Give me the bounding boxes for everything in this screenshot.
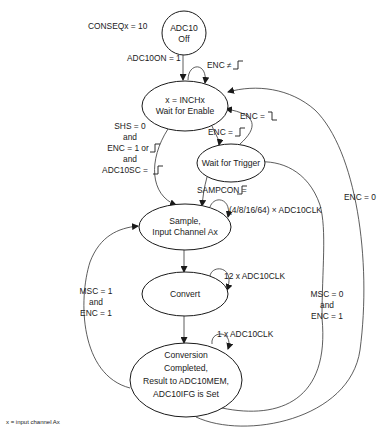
- label-enc-fall: ENC =: [240, 111, 265, 121]
- state-wait-enable-line1: x = INCHx: [165, 95, 205, 105]
- edge-complete-to-sample: [84, 226, 138, 388]
- label-enc-rise: ENC =: [208, 127, 233, 137]
- label-shs-line2: and: [123, 132, 137, 142]
- label-shs-line1: SHS = 0: [114, 121, 146, 131]
- label-msc0-line1: MSC = 0: [311, 289, 344, 299]
- state-wait-trigger: Wait for Trigger: [197, 144, 265, 182]
- state-complete-line3: Result to ADC10MEM,: [143, 376, 229, 386]
- label-msc1-line1: MSC = 1: [80, 286, 113, 296]
- label-msc1-line3: ENC = 1: [80, 308, 112, 318]
- label-msc0-line3: ENC = 1: [311, 311, 343, 321]
- state-complete-line1: Conversion: [164, 350, 208, 360]
- label-adc10on: ADC10ON = 1: [127, 53, 181, 63]
- label-convert-clk: 12 x ADC10CLK: [224, 271, 285, 281]
- state-wait-enable: x = INCHx Wait for Enable: [142, 81, 228, 131]
- state-sample-line2: Input Channel Ax: [152, 227, 218, 237]
- state-sample: Sample, Input Channel Ax: [139, 204, 231, 250]
- state-convert-line1: Convert: [170, 289, 201, 299]
- label-msc1: MSC = 1 and ENC = 1: [80, 286, 113, 318]
- state-wait-trigger-line1: Wait for Trigger: [202, 158, 261, 168]
- state-off: ADC10 Off: [162, 11, 206, 55]
- rising-edge-icon: [233, 61, 243, 69]
- label-msc0: MSC = 0 and ENC = 1: [311, 289, 344, 321]
- state-sample-line1: Sample,: [169, 216, 201, 226]
- label-shs-condition: SHS = 0 and ENC = 1 or and ADC10SC =: [102, 121, 163, 175]
- label-complete-clk: 1 x ADC10CLK: [217, 329, 274, 339]
- state-off-line2: Off: [178, 34, 190, 44]
- label-shs-line3: ENC = 1 or: [107, 143, 149, 153]
- label-enc0: ENC = 0: [344, 192, 376, 202]
- label-shs-line5: ADC10SC =: [102, 165, 148, 175]
- label-msc0-line2: and: [320, 300, 334, 310]
- rising-edge-icon: [235, 128, 245, 136]
- falling-edge-icon: [268, 112, 277, 120]
- edge-wait-enable-self: [188, 67, 205, 83]
- state-complete-line2: Completed,: [164, 363, 208, 373]
- adc-state-diagram: ADC10 Off x = INCHx Wait for Enable Wait…: [0, 0, 385, 432]
- label-sample-clk: (4/8/16/64) × ADC10CLK: [229, 205, 322, 215]
- label-conseq: CONSEQx = 10: [88, 21, 148, 31]
- footnote: x = input channel Ax: [6, 419, 60, 425]
- label-shs-line4: and: [123, 154, 137, 164]
- state-convert: Convert: [142, 272, 228, 316]
- state-complete-line4: ADC10IFG is Set: [153, 389, 220, 399]
- state-complete: Conversion Completed, Result to ADC10MEM…: [130, 343, 242, 417]
- state-wait-enable-line2: Wait for Enable: [156, 106, 215, 116]
- label-enc-not-rise: ENC ≠: [207, 60, 232, 70]
- label-msc1-line2: and: [89, 297, 103, 307]
- label-sampcon: SAMPCON =: [197, 185, 247, 195]
- state-off-line1: ADC10: [170, 23, 198, 33]
